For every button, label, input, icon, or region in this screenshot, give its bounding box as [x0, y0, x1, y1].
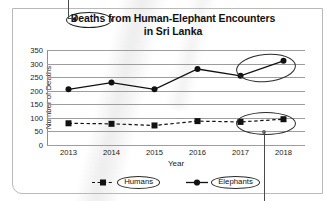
data-point-humans-2014: [109, 121, 115, 127]
x-axis-tick-label: 2015: [146, 148, 163, 157]
data-point-humans-2013: [66, 120, 72, 126]
humans-trend-circle-annotation: [236, 112, 296, 135]
title-leader-line-vertical: [68, 0, 69, 19]
x-axis-tick-label: 2018: [275, 148, 292, 157]
title-leader-arrowhead: [72, 16, 76, 22]
data-point-humans-2016: [195, 118, 201, 124]
legend-label-humans: Humans: [117, 176, 160, 189]
x-axis-title: Year: [47, 159, 305, 168]
legend-marker-humans: [92, 178, 114, 187]
y-axis-tick-label: 300: [30, 59, 43, 68]
grid-line: [47, 145, 305, 146]
data-point-elephants-2015: [152, 86, 158, 92]
y-axis-tick-label: 100: [30, 113, 43, 122]
legend-item-humans[interactable]: Humans: [92, 176, 160, 189]
data-point-elephants-2016: [195, 66, 201, 72]
y-axis-tick-label: 150: [30, 100, 43, 109]
chart-legend: Humans Elephants: [47, 176, 305, 189]
legend-label-elephants: Elephants: [211, 176, 260, 189]
x-axis-tick-label: 2017: [232, 148, 249, 157]
data-point-elephants-2014: [109, 80, 115, 86]
chart-screenshot: Deaths from Human-Elephant Encounters in…: [0, 0, 326, 201]
x-axis-tick-label: 2016: [189, 148, 206, 157]
y-axis-tick-label: 200: [30, 86, 43, 95]
data-point-elephants-2013: [66, 86, 72, 92]
data-point-humans-2015: [152, 122, 158, 128]
y-axis-tick-label: 250: [30, 73, 43, 82]
humans-leader-line: [264, 132, 265, 201]
legend-marker-elephants: [186, 178, 208, 187]
y-axis-tick-label: 350: [30, 46, 43, 55]
x-axis-tick-label: 2013: [60, 148, 77, 157]
x-axis-tick-label: 2014: [103, 148, 120, 157]
legend-item-elephants[interactable]: Elephants: [186, 176, 260, 189]
y-axis-tick-label: 0: [39, 141, 43, 150]
y-axis-tick-label: 50: [35, 127, 43, 136]
